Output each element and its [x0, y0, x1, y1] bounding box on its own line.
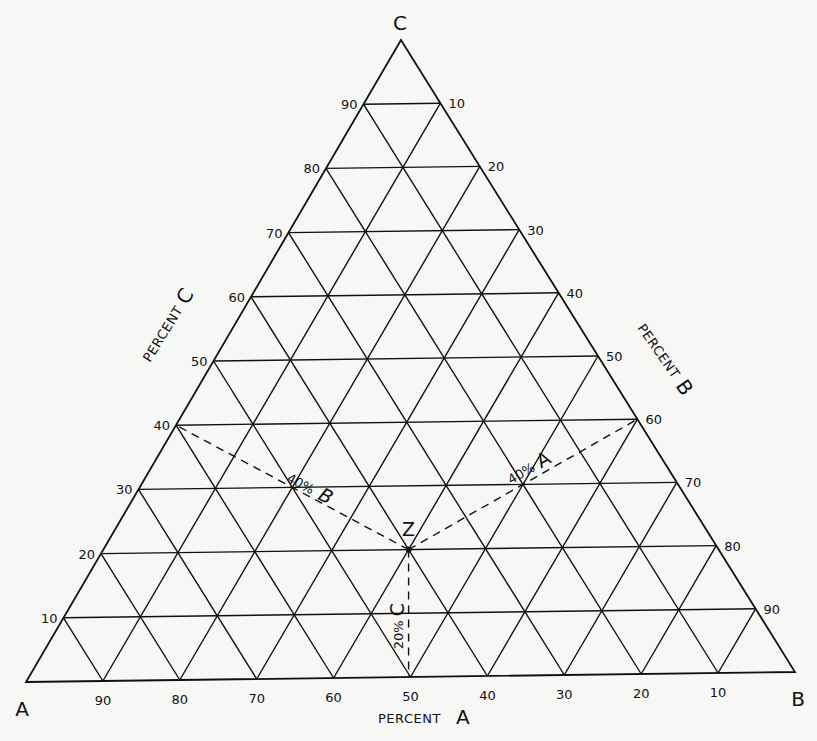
- tick-label-b: 30: [527, 223, 544, 238]
- tick-label-b: 40: [567, 286, 584, 301]
- grid-line: [251, 297, 487, 676]
- tick-label-b: 50: [606, 349, 623, 364]
- axis-title-c-word: PERCENT: [140, 303, 186, 364]
- axis-title-a: PERCENT A: [378, 705, 470, 729]
- grid-line: [176, 419, 637, 425]
- tick-label-a: 60: [325, 690, 342, 705]
- right-axis-ticks: 102030405060708090: [448, 96, 780, 617]
- left-axis-ticks: 102030405060708090: [41, 97, 358, 626]
- tick-label-c: 50: [191, 354, 208, 369]
- tick-label-b: 90: [764, 602, 781, 617]
- tick-label-a: 70: [248, 691, 265, 706]
- axis-title-b-letter: B: [671, 375, 699, 400]
- ternary-diagram: 102030405060708090 102030405060708090 90…: [0, 0, 817, 741]
- tick-label-a: 10: [710, 685, 727, 700]
- tick-label-b: 60: [645, 412, 662, 427]
- grid-line: [364, 103, 441, 104]
- grid-line: [139, 482, 677, 489]
- tick-label-a: 90: [95, 693, 112, 708]
- tick-label-c: 80: [303, 161, 320, 176]
- tick-label-a: 80: [172, 692, 189, 707]
- grid-line: [364, 104, 719, 673]
- point-z-label: Z: [402, 518, 415, 540]
- axis-title-a-letter: A: [456, 705, 470, 729]
- grid-line: [64, 618, 103, 681]
- grid-line: [64, 609, 756, 618]
- grid-lines: [64, 103, 756, 681]
- annotation-a: 40% A: [503, 446, 555, 488]
- triangle-frame: [26, 40, 795, 682]
- tick-label-a: 40: [479, 688, 496, 703]
- bottom-axis-ticks: 908070605040302010: [95, 685, 727, 708]
- grid-line: [334, 293, 559, 678]
- tick-label-c: 70: [266, 226, 283, 241]
- tick-label-c: 40: [153, 418, 170, 433]
- vertex-label-b: B: [791, 687, 805, 711]
- axis-title-c: PERCENT C: [135, 284, 199, 366]
- grid-line: [289, 233, 565, 675]
- grid-line: [289, 230, 520, 233]
- tick-label-b: 10: [448, 96, 465, 111]
- tick-label-c: 60: [228, 290, 245, 305]
- grid-line: [718, 609, 756, 673]
- grid-line: [103, 103, 441, 681]
- axis-title-b-word: PERCENT: [635, 321, 683, 381]
- annotation-c-percent: 20%: [391, 620, 406, 649]
- construction-line: [409, 419, 638, 549]
- grid-line: [214, 356, 599, 361]
- annotation-a-letter: A: [532, 446, 554, 472]
- tick-label-b: 70: [685, 475, 702, 490]
- tick-label-b: 20: [488, 159, 505, 174]
- tick-label-a: 30: [556, 687, 573, 702]
- vertex-label-c: C: [393, 11, 407, 35]
- grid-line: [176, 425, 334, 678]
- axis-title-b: PERCENT B: [631, 318, 698, 400]
- grid-line: [251, 293, 559, 297]
- tick-label-b: 80: [724, 539, 741, 554]
- tick-label-c: 90: [341, 97, 358, 112]
- grid-line: [326, 166, 480, 168]
- grid-line: [214, 361, 411, 677]
- tick-label-a: 50: [402, 689, 419, 704]
- tick-label-a: 20: [633, 686, 650, 701]
- tick-label-c: 20: [78, 547, 95, 562]
- annotation-c-letter: C: [386, 603, 408, 616]
- grid-line: [411, 356, 599, 677]
- tick-label-c: 30: [116, 482, 133, 497]
- point-z-marker: [406, 547, 412, 553]
- annotation-b: 40% B: [283, 466, 337, 509]
- tick-label-c: 10: [41, 611, 58, 626]
- axis-title-a-word: PERCENT: [378, 711, 441, 726]
- vertex-label-a: A: [15, 697, 29, 721]
